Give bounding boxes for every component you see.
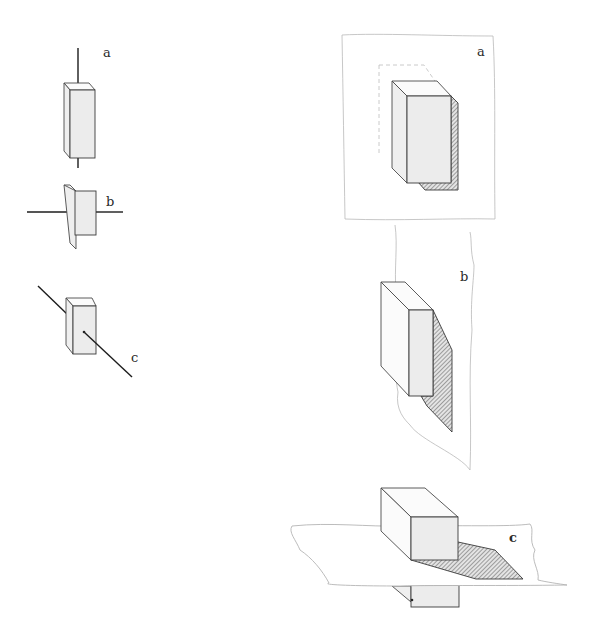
axis-line <box>38 286 67 314</box>
right-figure-a: a <box>342 34 495 219</box>
right-figure-b: b <box>381 225 474 470</box>
block-front-face <box>409 310 433 396</box>
left-figure-c: c <box>38 286 138 377</box>
block-side-face <box>64 83 70 158</box>
axis-line <box>84 332 132 377</box>
block-below-side <box>392 586 411 602</box>
block-front-face <box>70 90 95 158</box>
label-c-right: c <box>509 530 517 545</box>
block-below-front <box>411 585 459 607</box>
pierce-point <box>411 599 414 602</box>
block-side-face <box>66 298 73 354</box>
illustration-canvas: a b c a <box>0 0 594 632</box>
label-a-right: a <box>477 44 485 59</box>
block-front-face <box>73 306 96 354</box>
left-figure-a: a <box>64 45 111 168</box>
label-a: a <box>103 45 111 60</box>
block-side-face <box>392 81 407 183</box>
label-c: c <box>131 350 138 365</box>
label-b: b <box>106 194 114 209</box>
pierce-point <box>83 331 86 334</box>
block-front-face <box>411 517 458 560</box>
block-side-face <box>64 185 76 249</box>
right-figure-c: c <box>291 488 567 607</box>
left-figure-b: b <box>27 185 123 249</box>
block-front-face <box>75 191 96 235</box>
block-front-face <box>407 96 451 183</box>
label-b-right: b <box>460 269 468 284</box>
